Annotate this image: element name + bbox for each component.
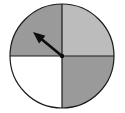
pointer-pivot-dot xyxy=(60,54,64,58)
sector-bottom-left[interactable] xyxy=(10,56,62,108)
sector-top-right[interactable] xyxy=(62,4,114,56)
sector-bottom-right[interactable] xyxy=(62,56,114,108)
spinner-svg: Spinner divided into four equal sectors … xyxy=(0,0,125,113)
spinner-figure: Spinner divided into four equal sectors … xyxy=(0,0,125,113)
